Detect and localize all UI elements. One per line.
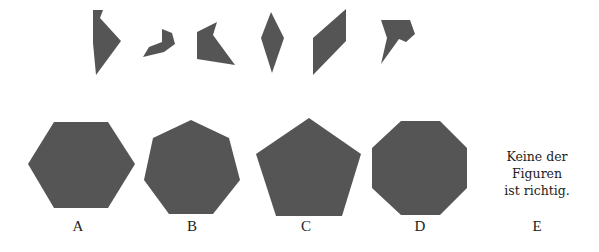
option-a-label[interactable]: A: [73, 218, 84, 235]
fragment-shape: [143, 29, 175, 57]
option-e-line-3: ist richtig.: [504, 182, 569, 199]
option-e-text[interactable]: Keine der Figuren ist richtig.: [504, 148, 569, 199]
option-b-label[interactable]: B: [187, 218, 197, 235]
option-d-octagon[interactable]: [372, 121, 467, 215]
option-a-hexagon[interactable]: [28, 122, 135, 208]
fragment-shape: [261, 12, 284, 73]
fragment-shape: [381, 20, 415, 64]
fragment-shape: [313, 9, 346, 75]
option-c-pentagon[interactable]: [256, 118, 361, 216]
option-e-line-1: Keine der: [504, 148, 569, 165]
option-b-heptagon[interactable]: [144, 120, 240, 214]
fragments-group: [93, 9, 415, 75]
puzzle-canvas: [0, 0, 599, 252]
option-e-line-2: Figuren: [504, 165, 569, 182]
option-d-label[interactable]: D: [415, 218, 426, 235]
option-e-label[interactable]: E: [532, 218, 541, 235]
fragment-shape: [93, 10, 121, 75]
option-c-label[interactable]: C: [301, 218, 311, 235]
options-group: [28, 118, 467, 216]
fragment-shape: [197, 22, 235, 65]
